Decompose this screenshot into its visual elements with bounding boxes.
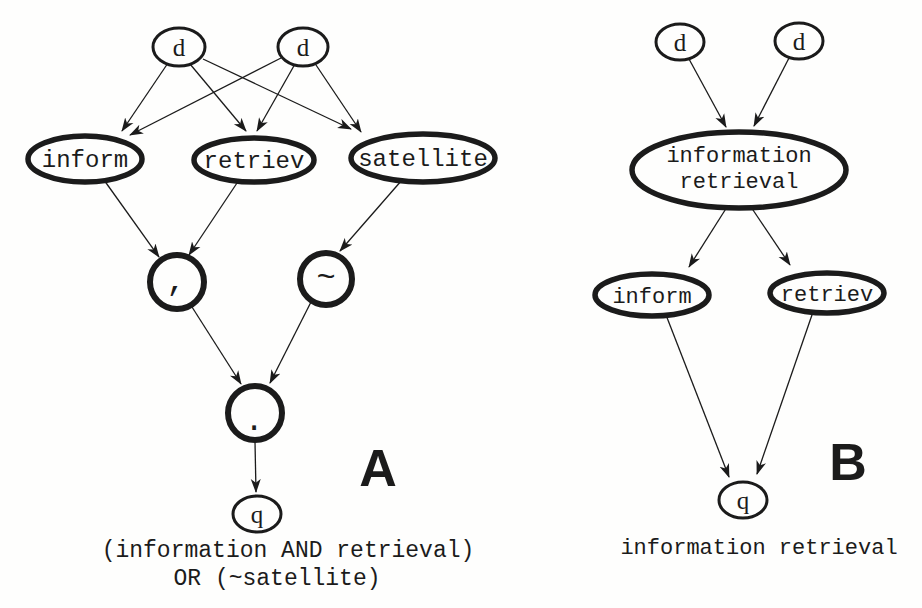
node-a-doc1-label: d	[173, 34, 186, 61]
node-a-doc1: d	[153, 28, 205, 66]
node-a-term-retriev: retriev	[194, 138, 314, 182]
edge-a-d1-inform	[122, 63, 168, 131]
edge-a-d2-inform	[130, 58, 281, 135]
edge-a-or-query	[255, 442, 256, 492]
edge-a-retriev-and	[189, 180, 239, 255]
edge-a-satellite-not	[340, 180, 402, 251]
node-a-term-inform: inform	[28, 136, 142, 182]
panel-a-label: A	[359, 439, 397, 497]
panel-a-caption-line1: (information AND retrieval)	[102, 538, 475, 564]
node-b-doc2-label: d	[793, 28, 806, 55]
edge-b-retriev-query	[757, 312, 813, 474]
node-a-term-satellite: satellite	[351, 134, 495, 182]
node-a-op-and: ,	[150, 255, 204, 309]
node-a-op-and-label: ,	[166, 263, 185, 300]
node-b-term-retriev-label: retriev	[781, 283, 873, 308]
edge-a-not-or	[270, 302, 311, 383]
edge-a-and-or	[192, 307, 241, 384]
node-a-doc2-label: d	[297, 34, 310, 61]
node-b-query-label: q	[737, 487, 750, 514]
edge-b-concept-inform	[689, 207, 727, 267]
node-a-op-not: ~	[300, 253, 352, 305]
panel-b-caption: information retrieval	[620, 536, 897, 561]
node-b-doc1: d	[656, 24, 704, 60]
node-b-concept-line2: retrieval	[680, 170, 799, 195]
node-a-term-retriev-label: retriev	[204, 148, 305, 175]
edge-a-inform-and	[104, 180, 159, 257]
edge-a-d2-retriev	[257, 64, 295, 131]
edge-b-d2-concept	[754, 58, 789, 126]
node-a-query: q	[233, 496, 281, 532]
panel-b-label: B	[829, 433, 867, 491]
node-b-doc1-label: d	[674, 29, 687, 56]
node-a-doc2: d	[278, 28, 328, 66]
node-a-op-not-label: ~	[316, 260, 335, 297]
inference-network-figure: d d inform retriev satellite	[0, 0, 922, 608]
node-b-concept-line1: information	[666, 144, 811, 169]
edge-a-d1-satellite	[203, 59, 351, 129]
edge-b-concept-retriev	[751, 207, 790, 265]
node-b-query: q	[719, 482, 767, 518]
node-b-term-inform: inform	[595, 274, 709, 316]
node-b-term-retriev: retriev	[770, 273, 884, 313]
panel-a: d d inform retriev satellite	[28, 28, 495, 592]
node-b-term-inform-label: inform	[612, 285, 691, 310]
node-a-term-satellite-label: satellite	[358, 146, 488, 173]
node-a-op-or: .	[228, 386, 282, 440]
edge-b-d1-concept	[689, 59, 726, 127]
edge-b-inform-query	[666, 315, 729, 477]
node-a-query-label: q	[251, 501, 264, 528]
edge-a-d1-retriev	[190, 64, 246, 131]
node-b-doc2: d	[775, 23, 823, 59]
node-a-term-inform-label: inform	[42, 147, 128, 174]
edge-a-d2-satellite	[314, 62, 361, 132]
panel-a-caption-line2: OR (~satellite)	[173, 566, 380, 592]
panel-b: d d information retrieval inform retriev	[595, 23, 898, 561]
node-a-op-or-label: .	[244, 403, 263, 440]
scanned-figure-page: d d inform retriev satellite	[0, 0, 922, 608]
